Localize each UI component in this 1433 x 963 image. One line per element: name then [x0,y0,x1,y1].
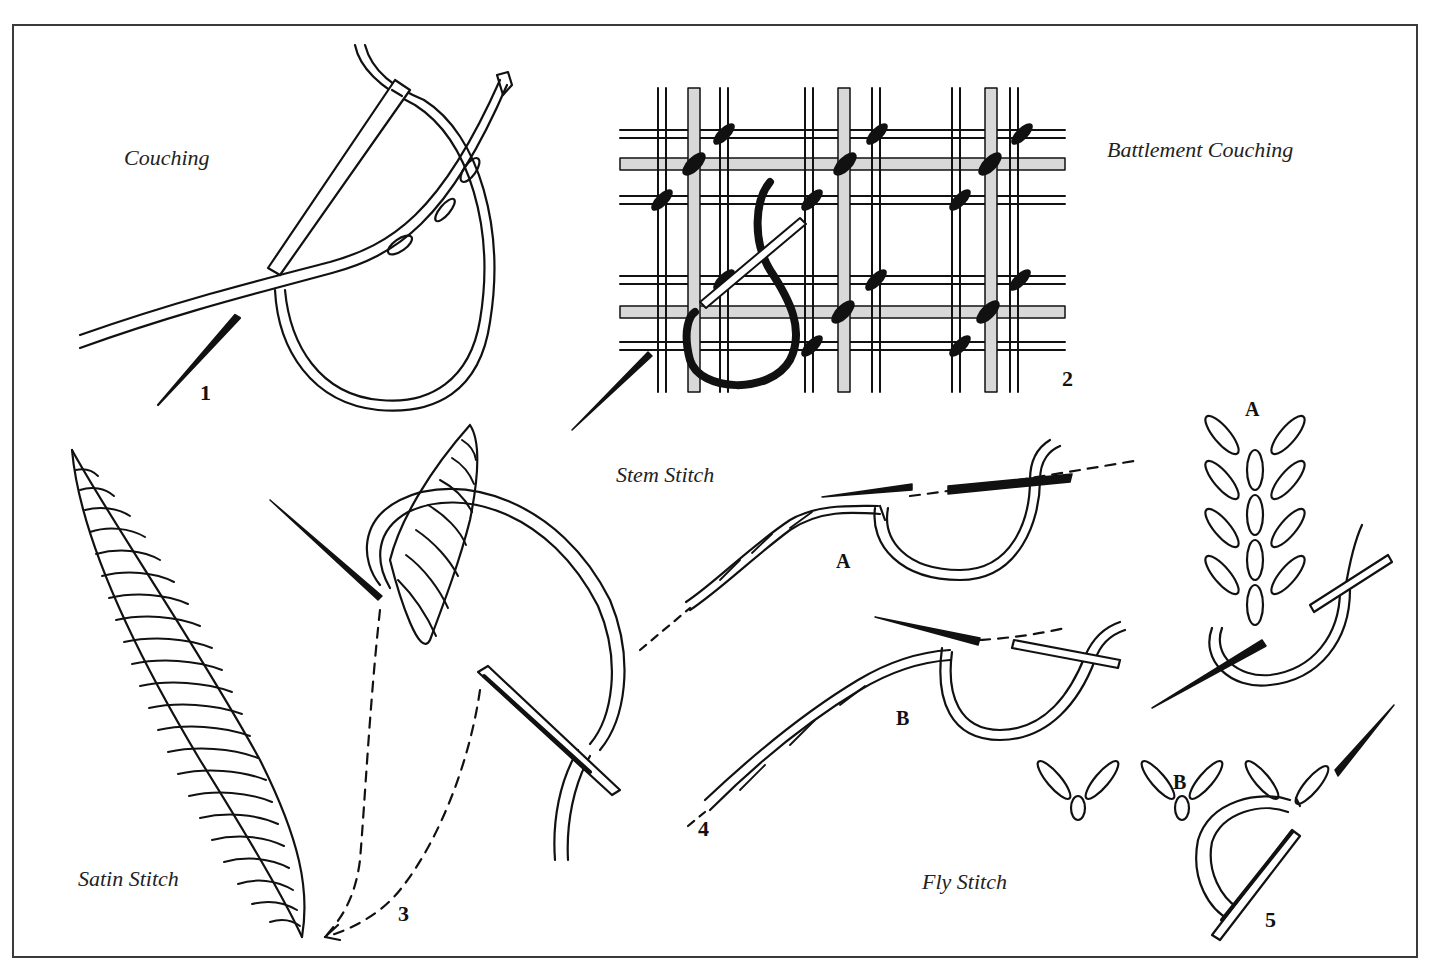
label-battlement-couching: Battlement Couching [1107,137,1293,163]
fly-step-a: A [1245,398,1259,421]
stem-stitch-illustration [640,440,1140,826]
couching-illustration [80,45,512,411]
label-fly-stitch: Fly Stitch [922,869,1007,895]
label-satin-stitch: Satin Stitch [78,866,179,892]
figure-number-4: 4 [698,816,709,842]
stem-step-a: A [836,550,850,573]
figure-number-2: 2 [1062,366,1073,392]
stem-step-b: B [896,707,909,730]
fly-step-b: B [1173,771,1186,794]
label-stem-stitch: Stem Stitch [616,462,714,488]
label-couching: Couching [124,145,210,171]
figure-number-3: 3 [398,901,409,927]
satin-stitch-illustration [72,425,624,940]
figure-number-1: 1 [200,380,211,406]
battlement-couching-illustration [572,88,1065,430]
figure-number-5: 5 [1265,907,1276,933]
